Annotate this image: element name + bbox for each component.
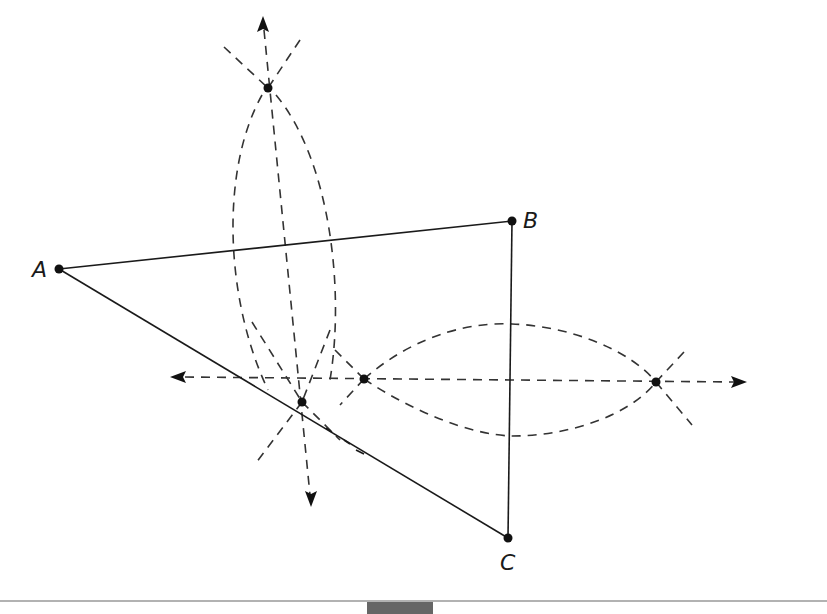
point-arc-intersection-bottom <box>298 398 307 407</box>
bottom-block <box>367 602 433 614</box>
arc-ab-left <box>233 95 268 390</box>
side-ab <box>59 221 512 269</box>
point-arc-intersection-left <box>360 375 369 384</box>
vertex-b-point <box>508 217 517 226</box>
perpendicular-bisector-ab <box>264 30 310 495</box>
point-arc-intersection-top <box>264 84 273 93</box>
vertex-a-label: A <box>30 257 47 282</box>
arc-tick-right-down <box>656 382 692 425</box>
arc-tick-left-down <box>340 379 364 405</box>
arc-tick-right-up <box>656 352 684 382</box>
arc-tick-left-up <box>335 350 364 379</box>
vertex-a-point <box>55 265 64 274</box>
construction-diagram: A B C <box>0 0 827 614</box>
point-arc-intersection-right <box>652 378 661 387</box>
vertex-c-label: C <box>500 550 516 575</box>
arc-tick-bottom-up-right <box>302 330 330 402</box>
arc-tick-top-left <box>224 47 268 88</box>
arrowhead-up-icon <box>257 16 269 32</box>
vertex-b-label: B <box>523 208 538 233</box>
arrowhead-left-icon <box>170 371 186 383</box>
arc-tick-top-right <box>268 40 300 88</box>
arrowhead-down-icon <box>305 491 317 507</box>
vertex-c-point <box>504 534 513 543</box>
side-ac <box>59 269 508 538</box>
